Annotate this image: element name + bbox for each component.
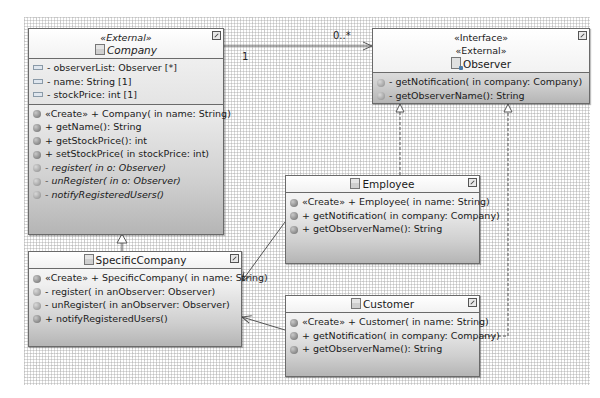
operations-section: «Create» + Customer( in name: String) + … [286, 313, 479, 358]
operation-row[interactable]: - unRegister( in anObserver: Observer) [33, 298, 237, 312]
operation-icon [377, 92, 385, 100]
operation-row[interactable]: + getNotification( in company: Company) [290, 329, 475, 343]
operation-row[interactable]: «Create» + Customer( in name: String) [290, 315, 475, 329]
operation-icon [33, 275, 41, 283]
interface-icon [451, 57, 461, 69]
operation-row[interactable]: + getNotification( in company: Company) [290, 209, 475, 223]
operation-icon [290, 212, 298, 220]
operations-section: «Create» + Employee( in name: String) + … [286, 193, 479, 238]
operation-icon [290, 319, 298, 327]
interface-observer[interactable]: «Interface» «External» Observer - getNot… [372, 28, 590, 104]
operation-icon [33, 164, 41, 172]
operation-icon [290, 346, 298, 354]
operation-row[interactable]: - getNotification( in company: Company) [377, 75, 585, 89]
operation-row[interactable]: - unRegister( in o: Observer) [33, 174, 219, 188]
stereotype-label: «Interface» [377, 31, 585, 44]
class-name: Customer [290, 298, 475, 311]
class-name: Employee [290, 178, 475, 191]
class-icon [350, 178, 360, 189]
class-icon [95, 44, 105, 55]
operation-icon [290, 226, 298, 234]
operation-icon [290, 199, 298, 207]
class-icon [84, 254, 94, 265]
operation-row[interactable]: «Create» + Company( in name: String) [33, 107, 219, 121]
attribute-icon [33, 65, 43, 70]
class-company[interactable]: «External» Company - observerList: Obser… [28, 28, 224, 235]
operation-row[interactable]: + getStockPrice(): int [33, 134, 219, 148]
operation-icon [33, 302, 41, 310]
class-header: «External» Company [29, 29, 223, 59]
operation-row[interactable]: + getName(): String [33, 120, 219, 134]
stereotype-label: «External» [33, 31, 219, 44]
attribute-row[interactable]: - stockPrice: int [1] [33, 88, 219, 102]
operation-row[interactable]: + getObserverName(): String [290, 222, 475, 236]
operation-icon [33, 178, 41, 186]
operation-row[interactable]: - getObserverName(): String [377, 89, 585, 103]
operations-section: «Create» + Company( in name: String) + g… [29, 105, 223, 204]
operation-icon [33, 124, 41, 132]
class-header: SpecificCompany [29, 252, 241, 269]
collapse-toggle-icon[interactable] [212, 31, 221, 40]
operation-icon [377, 79, 385, 87]
operations-section: «Create» + SpecificCompany( in name: Str… [29, 269, 241, 327]
multiplicity-target: 0..* [333, 30, 351, 41]
operation-icon [33, 191, 41, 199]
operation-row[interactable]: - notifyRegisteredUsers() [33, 188, 219, 202]
operation-icon [33, 110, 41, 118]
operation-row[interactable]: + notifyRegisteredUsers() [33, 312, 237, 326]
collapse-toggle-icon[interactable] [230, 254, 239, 263]
class-header: Customer [286, 296, 479, 313]
operation-row[interactable]: - register( in o: Observer) [33, 161, 219, 175]
collapse-toggle-icon[interactable] [468, 298, 477, 307]
class-name: Observer [377, 57, 585, 71]
multiplicity-source: 1 [242, 51, 248, 62]
class-header: «Interface» «External» Observer [373, 29, 589, 73]
class-name: Company [33, 44, 219, 57]
attribute-row[interactable]: - observerList: Observer [*] [33, 61, 219, 75]
stereotype-label: «External» [377, 44, 585, 57]
class-name: SpecificCompany [33, 254, 237, 267]
operations-section: - getNotification( in company: Company) … [373, 73, 589, 104]
operation-icon [33, 137, 41, 145]
collapse-toggle-icon[interactable] [578, 31, 587, 40]
operation-row[interactable]: + setStockPrice( in stockPrice: int) [33, 147, 219, 161]
operation-icon [290, 332, 298, 340]
operation-icon [33, 151, 41, 159]
attribute-row[interactable]: - name: String [1] [33, 75, 219, 89]
class-header: Employee [286, 176, 479, 193]
operation-icon [33, 315, 41, 323]
attribute-icon [33, 92, 43, 97]
class-icon [351, 298, 361, 309]
operation-row[interactable]: - register( in anObserver: Observer) [33, 285, 237, 299]
operation-icon [33, 288, 41, 296]
operation-row[interactable]: «Create» + SpecificCompany( in name: Str… [33, 271, 237, 285]
attributes-section: - observerList: Observer [*] - name: Str… [29, 59, 223, 105]
attribute-icon [33, 79, 43, 84]
class-customer[interactable]: Customer «Create» + Customer( in name: S… [285, 295, 480, 377]
operation-row[interactable]: «Create» + Employee( in name: String) [290, 195, 475, 209]
class-employee[interactable]: Employee «Create» + Employee( in name: S… [285, 175, 480, 264]
class-specificcompany[interactable]: SpecificCompany «Create» + SpecificCompa… [28, 251, 242, 347]
operation-row[interactable]: + getObserverName(): String [290, 342, 475, 356]
collapse-toggle-icon[interactable] [468, 178, 477, 187]
